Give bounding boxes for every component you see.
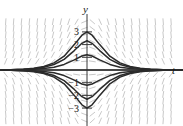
slope-field-tick (115, 39, 117, 45)
slope-field-tick (154, 78, 156, 84)
slope-field-tick (99, 112, 102, 117)
slope-field-tick (98, 99, 102, 104)
slope-field-tick (123, 19, 124, 25)
slope-field-tick (44, 92, 46, 98)
slope-field-tick (131, 98, 132, 104)
slope-field-tick (21, 45, 22, 51)
slope-field-tick (52, 85, 55, 90)
slope-field-tick (89, 61, 95, 62)
slope-field-tick (97, 74, 103, 75)
slope-field-tick (29, 45, 30, 51)
slope-field-tick (21, 39, 22, 45)
slope-field-tick (66, 74, 72, 76)
slope-field-tick (5, 85, 6, 91)
slope-field-tick (27, 73, 31, 77)
slope-field-tick (68, 118, 70, 124)
slope-field-tick (139, 45, 140, 51)
slope-field-tick (45, 25, 46, 31)
slope-field-tick (75, 118, 78, 123)
slope-field-tick (21, 105, 22, 111)
slope-field-tick (13, 91, 14, 97)
slope-field-tick (44, 45, 46, 51)
slope-field-tick (163, 39, 164, 45)
slope-field-tick (20, 59, 23, 64)
slope-field-tick (155, 25, 156, 31)
slope-field-tick (153, 72, 157, 76)
slope-field-tick (52, 25, 53, 31)
slope-field-tick (123, 118, 124, 124)
slope-field-tick (131, 118, 132, 124)
slope-field-tick (155, 19, 156, 25)
slope-field-tick (29, 105, 30, 111)
slope-field-tick (155, 118, 156, 124)
slope-field-tick (5, 32, 6, 38)
slope-field-tick (21, 91, 22, 97)
slope-field-tick (115, 19, 116, 25)
slope-field-tick (171, 98, 172, 104)
slope-field-tick (130, 59, 134, 64)
slope-field-tick (163, 105, 164, 111)
slope-field-tick (21, 98, 22, 104)
slope-field-tick (139, 19, 140, 25)
slope-field-tick (68, 26, 70, 32)
slope-field-tick (44, 98, 45, 104)
slope-field-tick (98, 53, 103, 56)
slope-field-tick (146, 78, 148, 84)
slope-field-tick (147, 45, 148, 51)
slope-field-tick (107, 19, 109, 25)
slope-field-tick (37, 111, 38, 117)
slope-field-tick (5, 105, 6, 111)
slope-field-tick (139, 39, 140, 45)
slope-field-tick (90, 119, 94, 123)
slope-field-tick (60, 98, 62, 104)
slope-field-tick (123, 25, 124, 31)
slope-field-tick (163, 98, 164, 104)
slope-field-tick (123, 32, 124, 38)
slope-field-tick (139, 85, 141, 91)
slope-field-tick (107, 105, 109, 111)
slope-field-tick (37, 91, 38, 97)
slope-field-tick (36, 45, 38, 51)
slope-field-tick (29, 111, 30, 117)
y-tick-label: 3 (74, 26, 79, 37)
slope-field-tick (13, 85, 14, 91)
slope-field-tick (59, 85, 62, 90)
slope-field-tick (5, 91, 6, 97)
slope-field-tick (171, 32, 172, 38)
slope-field-tick (60, 111, 61, 117)
slope-field-tick (5, 59, 7, 65)
slope-field-tick (123, 85, 125, 90)
slope-field-tick (147, 91, 148, 97)
direction-field-figure: 321−1−2−3 y t (0, 0, 183, 126)
slope-field-tick (147, 111, 148, 117)
slope-field-tick (29, 91, 30, 97)
slope-field-tick (37, 105, 38, 111)
slope-field-tick (131, 39, 132, 45)
slope-field-tick (59, 45, 62, 50)
slope-field-tick (4, 72, 8, 77)
slope-field-tick (115, 105, 117, 111)
slope-field-tick (29, 25, 30, 31)
slope-field-tick (138, 78, 141, 83)
y-tick-label: −3 (68, 103, 79, 114)
slope-field-tick (45, 32, 46, 38)
slope-field-tick (13, 45, 14, 51)
slope-field-tick (146, 59, 149, 64)
slope-field-tick (107, 92, 110, 97)
slope-field-tick (99, 26, 102, 31)
slope-field-tick (13, 105, 14, 111)
slope-field-tick (52, 111, 53, 117)
slope-field-tick (161, 72, 165, 77)
slope-field-tick (90, 27, 95, 31)
slope-field-tick (21, 52, 23, 58)
slope-field-tick (37, 25, 38, 31)
slope-field-tick (74, 74, 80, 75)
slope-field-tick (44, 52, 47, 57)
slope-field-tick (155, 32, 156, 38)
slope-field-tick (123, 39, 125, 45)
slope-field-tick (147, 98, 148, 104)
slope-field-tick (52, 98, 54, 104)
slope-field-tick (37, 118, 38, 124)
slope-field-tick (162, 52, 163, 58)
slope-field-tick (155, 98, 156, 104)
